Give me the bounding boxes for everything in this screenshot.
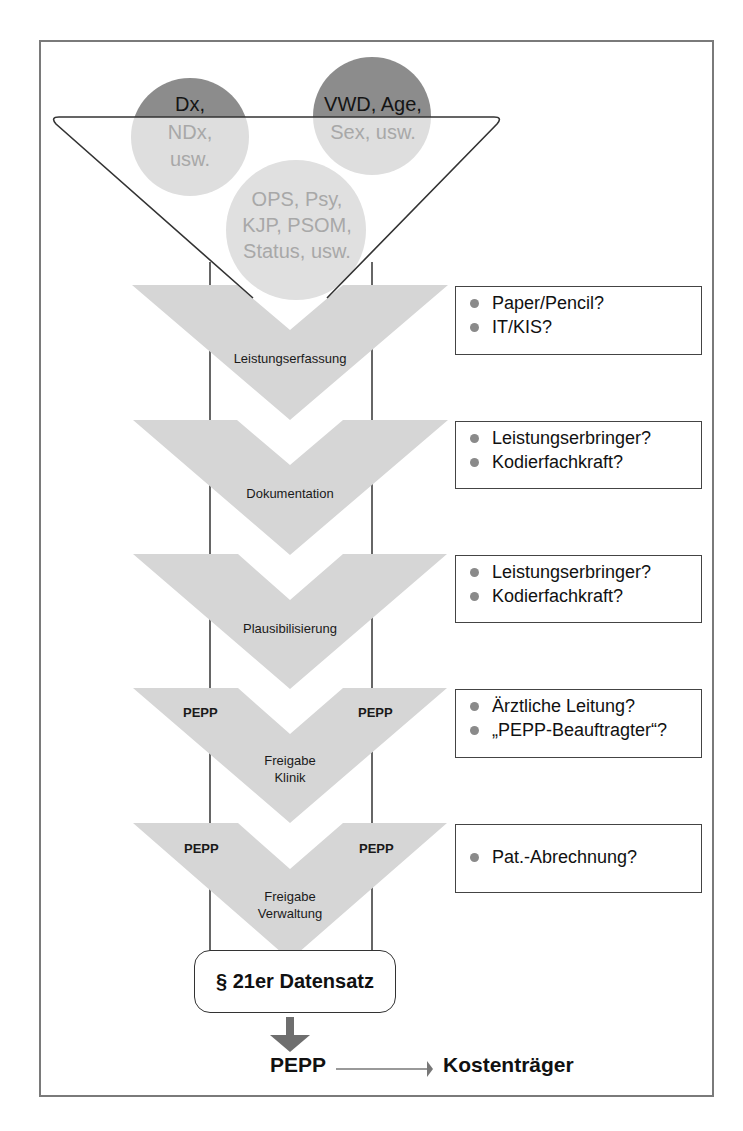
output-datensatz-box: § 21er Datensatz bbox=[194, 950, 396, 1013]
circle-center-text-3: Status, usw. bbox=[226, 239, 368, 264]
question-box-freigabe-klinik: Ärztliche Leitung? „PEPP-Beauftragter“? bbox=[455, 689, 702, 758]
question-item: Paper/Pencil? bbox=[470, 291, 701, 315]
circle-left-bottom-text-2: usw. bbox=[150, 147, 230, 172]
question-item: Pat.-Abrechnung? bbox=[470, 845, 701, 869]
pepp-tag-verwaltung-left: PEPP bbox=[184, 841, 219, 856]
bullet-icon bbox=[470, 726, 479, 735]
circle-center-text-1: OPS, Psy, bbox=[226, 187, 368, 212]
step-label-freigabe-verwaltung-2: Verwaltung bbox=[200, 905, 380, 922]
right-arrow-icon bbox=[336, 1061, 433, 1077]
bullet-icon bbox=[470, 434, 479, 443]
question-box-plausibilisierung: Leistungserbringer? Kodierfachkraft? bbox=[455, 555, 702, 623]
circle-right-top-text: VWD, Age, bbox=[312, 92, 434, 117]
question-item: Ärztliche Leitung? bbox=[470, 694, 701, 718]
bullet-icon bbox=[470, 592, 479, 601]
step-label-plausibilisierung: Plausibilisierung bbox=[200, 620, 380, 637]
circle-left-top-text: Dx, bbox=[150, 92, 230, 117]
step-label-leistungserfassung: Leistungserfassung bbox=[200, 350, 380, 367]
circle-right-bottom-text: Sex, usw. bbox=[312, 120, 434, 145]
bullet-icon bbox=[470, 299, 479, 308]
step-label-dokumentation: Dokumentation bbox=[200, 485, 380, 502]
circle-center-text-2: KJP, PSOM, bbox=[226, 213, 368, 238]
question-item: Leistungserbringer? bbox=[470, 426, 701, 450]
pepp-tag-klinik-right: PEPP bbox=[358, 705, 393, 720]
question-item: IT/KIS? bbox=[470, 315, 701, 339]
circle-left-bottom-text-1: NDx, bbox=[150, 120, 230, 145]
question-item: „PEPP-Beauftragter“? bbox=[470, 718, 701, 742]
down-arrow-icon bbox=[270, 1017, 310, 1052]
question-item: Kodierfachkraft? bbox=[470, 584, 701, 608]
step-label-freigabe-klinik-2: Klinik bbox=[200, 769, 380, 786]
question-item: Kodierfachkraft? bbox=[470, 450, 701, 474]
step-label-freigabe-verwaltung-1: Freigabe bbox=[200, 888, 380, 905]
bullet-icon bbox=[470, 323, 479, 332]
bullet-icon bbox=[470, 568, 479, 577]
question-box-dokumentation: Leistungserbringer? Kodierfachkraft? bbox=[455, 421, 702, 489]
pepp-tag-klinik-left: PEPP bbox=[183, 705, 218, 720]
pepp-tag-verwaltung-right: PEPP bbox=[359, 841, 394, 856]
step-label-freigabe-klinik-1: Freigabe bbox=[200, 752, 380, 769]
bullet-icon bbox=[470, 702, 479, 711]
bullet-icon bbox=[470, 853, 479, 862]
question-box-leistungserfassung: Paper/Pencil? IT/KIS? bbox=[455, 286, 702, 355]
question-item: Leistungserbringer? bbox=[470, 560, 701, 584]
bullet-icon bbox=[470, 458, 479, 467]
final-target-label: Kostenträger bbox=[443, 1053, 574, 1077]
question-box-freigabe-verwaltung: Pat.-Abrechnung? bbox=[455, 824, 702, 893]
final-source-label: PEPP bbox=[270, 1053, 326, 1077]
